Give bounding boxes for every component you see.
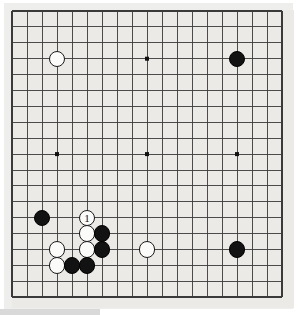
stone-white[interactable]: 1 (79, 210, 95, 226)
stone-white[interactable] (49, 51, 65, 67)
page-bottom-shadow (0, 309, 100, 315)
stone-black[interactable] (94, 241, 110, 257)
stone-layer: 1 (0, 0, 298, 315)
stone-black[interactable] (94, 225, 110, 241)
stone-white[interactable] (139, 241, 155, 257)
stone-white[interactable] (79, 225, 95, 241)
stone-black[interactable] (79, 257, 95, 273)
stone-white[interactable] (79, 241, 95, 257)
stone-black[interactable] (229, 241, 245, 257)
stone-white[interactable] (49, 241, 65, 257)
stone-white[interactable] (49, 257, 65, 273)
go-diagram-root: 1 (0, 0, 298, 315)
stone-black[interactable] (64, 257, 80, 273)
stone-black[interactable] (34, 210, 50, 226)
stone-black[interactable] (229, 51, 245, 67)
stone-move-number: 1 (80, 213, 94, 224)
